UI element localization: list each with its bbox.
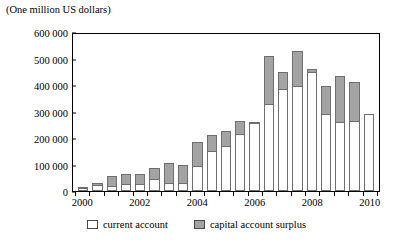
bar-segment-current-account: [207, 151, 217, 191]
stacked-bar: [292, 51, 302, 191]
y-axis-tick-label: 100 000: [34, 160, 68, 171]
stacked-bar: [235, 121, 245, 191]
y-axis-tick-mark: [72, 59, 76, 60]
y-axis-tick-label: 500 000: [34, 54, 68, 65]
bar-segment-current-account: [164, 183, 174, 191]
y-axis-tick-label: 300 000: [34, 107, 68, 118]
x-axis-tick-mark: [176, 192, 177, 196]
x-axis-tick-mark: [334, 192, 335, 196]
bar-segment-capital-account-surplus: [335, 76, 345, 122]
bar-segment-capital-account-surplus: [264, 56, 274, 104]
bar-segment-capital-account-surplus: [121, 174, 131, 185]
legend-label-current-account: current account: [103, 219, 168, 230]
x-axis-tick-label: 2010: [359, 197, 380, 208]
stacked-bar: [307, 69, 317, 191]
x-axis-tick-mark: [161, 192, 162, 196]
bar-segment-capital-account-surplus: [207, 135, 217, 151]
bar-slot: [362, 34, 376, 191]
x-axis-tick-mark: [248, 192, 249, 196]
stacked-bar: [92, 183, 102, 191]
bar-segment-current-account: [78, 188, 88, 191]
legend-swatch-capital-account-surplus: [194, 220, 205, 229]
bar-segment-current-account: [135, 184, 145, 191]
bar-slot: [247, 34, 261, 191]
bar-segment-capital-account-surplus: [321, 86, 331, 114]
x-axis-tick-mark: [348, 192, 349, 196]
stacked-bar: [349, 82, 359, 191]
bar-segment-current-account: [264, 104, 274, 191]
stacked-bar: [335, 76, 345, 191]
bar-segment-capital-account-surplus: [164, 163, 174, 183]
x-axis-tick-mark: [204, 192, 205, 196]
bar-segment-capital-account-surplus: [149, 168, 159, 179]
bar-segment-capital-account-surplus: [192, 142, 202, 166]
bar-slot: [290, 34, 304, 191]
bar-slot: [205, 34, 219, 191]
bar-segment-current-account: [278, 89, 288, 191]
x-axis-tick-mark: [291, 192, 292, 196]
bar-slot: [219, 34, 233, 191]
x-axis-tick-mark: [319, 192, 320, 196]
x-axis-tick-label: 2006: [244, 197, 265, 208]
bar-segment-current-account: [349, 121, 359, 191]
x-axis-tick-mark: [89, 192, 90, 196]
x-axis-tick-mark: [377, 192, 378, 196]
x-axis-tick-mark: [363, 192, 364, 196]
chart-legend: current account capital account surplus: [0, 219, 393, 230]
x-axis-tick-label: 2000: [72, 197, 93, 208]
bar-segment-current-account: [192, 166, 202, 191]
bar-slot: [262, 34, 276, 191]
bar-segment-current-account: [178, 183, 188, 191]
stacked-bar: [264, 56, 274, 191]
stacked-bar: [178, 165, 188, 191]
stacked-bar: [278, 72, 288, 191]
stacked-bar: [321, 86, 331, 191]
bar-slot: [105, 34, 119, 191]
bar-segment-capital-account-surplus: [349, 82, 359, 120]
x-axis-tick-mark: [133, 192, 134, 196]
x-axis-tick-mark: [104, 192, 105, 196]
bar-segment-current-account: [364, 114, 374, 191]
x-axis-tick-label: 2002: [129, 197, 150, 208]
bar-segment-capital-account-surplus: [107, 176, 117, 186]
bar-slot: [305, 34, 319, 191]
bar-slot: [162, 34, 176, 191]
bar-segment-capital-account-surplus: [221, 131, 231, 146]
stacked-bar: [135, 174, 145, 191]
x-axis-tick-mark: [276, 192, 277, 196]
bar-segment-current-account: [335, 122, 345, 191]
bar-segment-capital-account-surplus: [135, 174, 145, 183]
x-axis-tick-label: 2008: [302, 197, 323, 208]
stacked-bar: [221, 131, 231, 191]
bar-slot: [176, 34, 190, 191]
stacked-bar: [164, 163, 174, 191]
legend-swatch-current-account: [87, 220, 98, 229]
y-axis-tick-mark: [72, 165, 76, 166]
stacked-bar: [249, 122, 259, 191]
bar-segment-current-account: [149, 179, 159, 191]
stacked-bar: [207, 135, 217, 191]
bar-slot: [133, 34, 147, 191]
y-axis-tick-mark: [72, 112, 76, 113]
legend-label-capital-account-surplus: capital account surplus: [210, 219, 306, 230]
bar-slot: [276, 34, 290, 191]
bar-slot: [347, 34, 361, 191]
bar-slot: [76, 34, 90, 191]
x-axis-tick-mark: [262, 192, 263, 196]
y-axis-tick-label: 400 000: [34, 81, 68, 92]
bar-slot: [147, 34, 161, 191]
y-axis-tick-label: 200 000: [34, 134, 68, 145]
unit-label: (One million US dollars): [6, 4, 111, 16]
stacked-bar: [364, 114, 374, 191]
bar-segment-current-account: [249, 123, 259, 191]
y-axis-tick-mark: [72, 33, 76, 34]
bar-segment-current-account: [121, 184, 131, 191]
bar-segment-current-account: [307, 72, 317, 191]
stacked-bar: [78, 187, 88, 191]
x-axis-tick-mark: [75, 192, 76, 196]
legend-item-capital-account-surplus: capital account surplus: [194, 219, 306, 230]
bars-container: [73, 34, 379, 191]
x-axis-tick-label: 2004: [187, 197, 208, 208]
bar-segment-capital-account-surplus: [235, 121, 245, 134]
y-axis-tick-mark: [72, 139, 76, 140]
